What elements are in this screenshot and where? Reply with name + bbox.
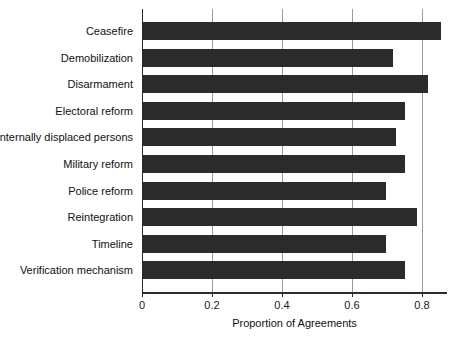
x-tick-label: 0.4: [262, 299, 302, 312]
bar: [142, 128, 396, 146]
bar-row: [142, 235, 447, 253]
x-tick-label: 0: [122, 299, 162, 312]
bar-row: [142, 102, 447, 120]
x-tick-mark: [422, 292, 423, 297]
y-axis-tick-label: Reintegration: [68, 210, 133, 224]
bar: [142, 208, 417, 226]
bar-row: [142, 261, 447, 279]
bar-row: [142, 75, 447, 93]
bar: [142, 49, 393, 67]
y-axis-tick-label: Disarmament: [68, 77, 133, 91]
bar: [142, 261, 405, 279]
bar-row: [142, 128, 447, 146]
y-axis-tick-label: Police reform: [68, 184, 133, 198]
y-axis-tick-label: Timeline: [92, 237, 133, 251]
bar-row: [142, 22, 447, 40]
bar-row: [142, 208, 447, 226]
y-axis-tick-label: Electoral reform: [55, 104, 133, 118]
bar-row: [142, 49, 447, 67]
bar: [142, 182, 386, 200]
y-axis-tick-label: Demobilization: [61, 51, 133, 65]
bar: [142, 22, 441, 40]
x-tick-mark: [142, 292, 143, 297]
bar: [142, 155, 405, 173]
plot-area: [142, 9, 447, 292]
y-axis-tick-label: Ceasefire: [86, 24, 133, 38]
x-tick-label: 0.8: [402, 299, 442, 312]
y-axis-tick-label: Verification mechanism: [20, 263, 133, 277]
y-axis-tick-label: Military reform: [63, 157, 133, 171]
x-axis-line: [142, 292, 447, 294]
bar-row: [142, 182, 447, 200]
x-tick-mark: [352, 292, 353, 297]
bar-row: [142, 155, 447, 173]
bar-chart: CeasefireDemobilizationDisarmamentElecto…: [0, 0, 455, 337]
x-tick-mark: [282, 292, 283, 297]
y-axis-tick-label: Internally displaced persons: [0, 130, 133, 144]
y-axis-category-labels: CeasefireDemobilizationDisarmamentElecto…: [0, 0, 137, 337]
x-tick-label: 0.6: [332, 299, 372, 312]
x-axis-label: Proportion of Agreements: [142, 316, 447, 330]
x-tick-label: 0.2: [192, 299, 232, 312]
bar: [142, 102, 405, 120]
bar: [142, 75, 428, 93]
bar: [142, 235, 386, 253]
x-tick-mark: [212, 292, 213, 297]
